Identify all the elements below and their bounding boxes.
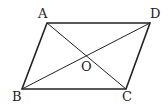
label-O: O	[81, 59, 92, 74]
label-A: A	[37, 6, 48, 21]
diagonal-BD	[22, 23, 150, 89]
label-B: B	[12, 89, 22, 104]
parallelogram-diagram: A D B C O	[0, 0, 168, 107]
label-C: C	[122, 89, 132, 104]
label-D: D	[150, 6, 160, 21]
